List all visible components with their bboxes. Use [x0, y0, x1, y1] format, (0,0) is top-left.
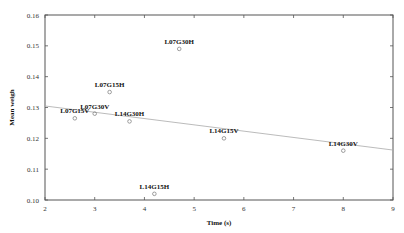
x-tick-label: 4	[143, 205, 147, 213]
point-label: L07G30V	[80, 103, 109, 111]
data-point	[128, 120, 132, 124]
x-tick-label: 6	[242, 205, 246, 213]
x-tick-label: 3	[93, 205, 97, 213]
x-axis-title: Time (s)	[207, 219, 232, 227]
x-tick-label: 2	[43, 205, 47, 213]
y-tick-label: 0.14	[27, 73, 40, 81]
y-axis-title: Mean weigh	[8, 89, 16, 125]
y-tick-label: 0.11	[27, 166, 39, 174]
y-tick-label: 0.10	[27, 197, 40, 205]
data-point	[153, 192, 157, 196]
data-point	[222, 137, 226, 141]
y-tick-label: 0.13	[27, 104, 40, 112]
y-tick-label: 0.12	[27, 135, 40, 143]
point-label: L14G15H	[140, 183, 170, 191]
y-tick-label: 0.16	[27, 12, 40, 20]
data-point	[177, 47, 181, 51]
scatter-chart: 234567890.100.110.120.130.140.150.16L07G…	[0, 0, 404, 233]
data-point	[341, 149, 345, 153]
x-tick-label: 7	[292, 205, 296, 213]
data-point	[108, 90, 112, 94]
point-label: L14G30V	[329, 140, 358, 148]
plot-area: 234567890.100.110.120.130.140.150.16L07G…	[8, 12, 395, 228]
x-tick-label: 5	[192, 205, 196, 213]
point-label: L14G15V	[209, 127, 238, 135]
data-point	[73, 116, 77, 120]
x-tick-label: 9	[391, 205, 395, 213]
point-label: L07G15H	[95, 81, 125, 89]
y-tick-label: 0.15	[27, 42, 40, 50]
point-label: L14G30H	[115, 110, 145, 118]
x-tick-label: 8	[342, 205, 346, 213]
point-label: L07G30H	[164, 38, 194, 46]
